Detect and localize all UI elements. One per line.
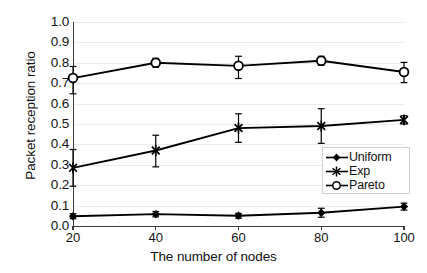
filled-diamond-icon — [325, 151, 349, 164]
x-axis-tick-mark — [238, 226, 239, 230]
x-axis-tick-mark — [72, 226, 73, 230]
line-chart: 0.00.10.20.30.40.50.60.70.80.91.0 Packet… — [0, 0, 427, 273]
x-axis-tick-mark — [403, 226, 404, 230]
series-pareto — [69, 56, 409, 94]
marker-open-circle — [400, 68, 409, 77]
legend-label-pareto: Pareto — [349, 179, 385, 192]
marker-open-circle — [69, 74, 78, 83]
x-axis-tick-label: 20 — [66, 231, 80, 244]
legend-item-pareto[interactable]: Pareto — [325, 178, 409, 192]
marker-open-circle — [151, 58, 160, 67]
x-axis-tick-label: 60 — [231, 231, 245, 244]
y-axis-title: Packet reception ratio — [23, 26, 38, 206]
series-layer — [0, 0, 427, 273]
series-uniform — [69, 202, 408, 220]
legend-label-uniform: Uniform — [349, 151, 391, 164]
chart-legend: Uniform Exp Pareto — [322, 147, 410, 194]
marker-open-circle — [317, 56, 326, 65]
x-axis-tick-label: 80 — [314, 231, 328, 244]
x-axis-title: The number of nodes — [0, 249, 427, 264]
asterisk-icon — [325, 165, 349, 178]
x-axis-tick-mark — [155, 226, 156, 230]
legend-item-uniform[interactable]: Uniform — [325, 150, 409, 164]
x-axis-tick-label: 100 — [393, 231, 415, 244]
open-circle-icon — [325, 179, 349, 192]
x-axis-tick-label: 40 — [149, 231, 163, 244]
legend-item-exp[interactable]: Exp — [325, 164, 409, 178]
marker-filled-diamond — [317, 209, 325, 217]
x-axis-tick-mark — [321, 226, 322, 230]
marker-open-circle — [234, 61, 243, 70]
legend-label-exp: Exp — [349, 165, 370, 178]
